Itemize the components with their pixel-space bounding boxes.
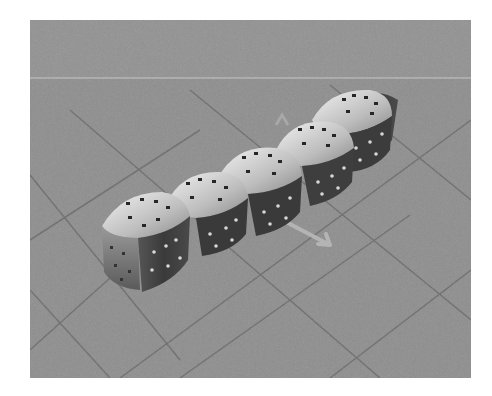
render-scene (30, 20, 471, 378)
robot-cubes-illustration (30, 20, 471, 378)
